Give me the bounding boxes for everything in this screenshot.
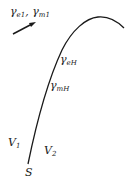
label-V2: V2	[44, 145, 56, 158]
arrow	[13, 22, 36, 34]
subscript: 2	[52, 150, 56, 158]
label-gamma-eH: γeH	[60, 54, 77, 67]
subscript: mH	[57, 85, 70, 93]
subscript: 1	[16, 142, 20, 150]
gamma-symbol: γ	[10, 5, 17, 18]
gamma-symbol: γ	[32, 5, 39, 18]
V-symbol: V	[8, 136, 16, 149]
curve	[28, 17, 124, 164]
subscript: m1	[39, 11, 50, 19]
subscript: e1	[17, 11, 26, 19]
label-S: S	[25, 167, 33, 178]
gamma-symbol: γ	[50, 79, 57, 92]
label-gamma-mH: γmH	[50, 80, 69, 93]
label-gamma-e1-m1: γe1, γm1	[10, 6, 50, 19]
label-V1: V1	[8, 137, 20, 150]
subscript: eH	[67, 59, 77, 67]
V-symbol: V	[44, 144, 52, 157]
gamma-symbol: γ	[60, 53, 67, 66]
diagram-canvas	[0, 0, 133, 186]
